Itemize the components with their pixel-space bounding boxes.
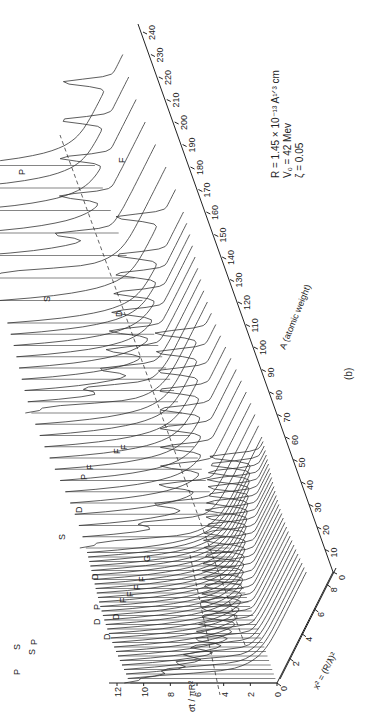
resonance-label-p: P <box>12 669 22 675</box>
a-tick-label: 160 <box>210 205 220 220</box>
a-tick-label: 200 <box>179 115 189 130</box>
a-tick-label: 240 <box>147 25 157 40</box>
resonance-label-p: P <box>17 169 27 175</box>
resonance-label-s: S <box>27 649 37 655</box>
x-tick-label: 8 <box>329 587 339 592</box>
a-tick-label: 120 <box>242 295 252 310</box>
a-tick-label: 60 <box>290 435 300 445</box>
panel-label: (b) <box>343 368 354 380</box>
x-tick-label: 6 <box>316 612 326 617</box>
a-tick-label: 30 <box>313 502 323 512</box>
resonance-label-s: S <box>57 534 67 540</box>
a-tick-label: 50 <box>297 457 307 467</box>
resonance-label-p: P <box>92 604 102 610</box>
a-axis-label: A (atomic weight) <box>278 283 313 351</box>
cross-section-curve <box>0 100 136 211</box>
resonance-label-d: D <box>90 573 100 580</box>
y-tick-label: 8 <box>166 692 176 697</box>
resonance-label-s: S <box>12 644 22 650</box>
cross-section-curve <box>0 55 123 166</box>
resonance-label-f: F <box>117 157 127 163</box>
resonance-label-d: D <box>114 310 124 317</box>
resonance-label-d: D <box>92 618 102 625</box>
param-potential: V₀ = 42 Mev <box>282 70 294 178</box>
resonance-label-d: D <box>102 633 112 640</box>
a-tick-label: 170 <box>202 182 212 197</box>
resonance-label-f: F <box>132 584 142 590</box>
x-tick-label: 0 <box>279 686 289 691</box>
resonance-label-s: S <box>42 296 52 302</box>
resonance-label-f: F <box>125 591 135 597</box>
cross-section-curve <box>92 460 268 571</box>
a-tick-label: 40 <box>305 480 315 490</box>
resonance-label-f: F <box>85 464 95 470</box>
a-tick-label: 90 <box>266 367 276 377</box>
cross-section-curve <box>14 235 190 346</box>
param-radius: R = 1.45 × 10⁻¹³ A¹ᐟ³ cm <box>270 70 282 178</box>
cross-section-curve <box>60 370 236 481</box>
a-tick-label: 10 <box>329 547 339 557</box>
cross-section-curve <box>89 451 265 562</box>
resonance-label-f: F <box>137 576 147 582</box>
a-tick-label: 190 <box>187 137 197 152</box>
a-tick-label: 180 <box>195 160 205 175</box>
waterfall-chart: 024681012σ̄t / πR²02468x² = (R/ƛ)²010203… <box>0 0 365 716</box>
resonance-label-g: G <box>142 555 152 562</box>
a-tick-label: 110 <box>250 318 260 332</box>
a-tick-label: 220 <box>163 70 173 85</box>
cross-section-curve <box>0 190 176 301</box>
cross-section-curve <box>80 437 262 548</box>
cross-section-curve <box>100 496 276 607</box>
cross-section-curve <box>45 336 221 447</box>
cross-section-curve <box>28 291 204 402</box>
cross-section-curve <box>0 167 166 278</box>
cross-section-curve <box>70 392 246 503</box>
cross-section-curve <box>55 358 231 469</box>
cross-section-curve <box>19 257 195 368</box>
y-tick-label: 12 <box>113 687 123 697</box>
cross-section-curve <box>22 268 198 379</box>
cross-section-curve <box>99 491 275 602</box>
resonance-label-d: D <box>74 506 84 513</box>
x-tick-label: 2 <box>291 661 301 666</box>
resonance-label-p: P <box>79 474 89 480</box>
param-zeta: ζ = 0.05 <box>294 70 306 178</box>
a-tick-label: 20 <box>321 525 331 535</box>
a-tick-label: 80 <box>274 390 284 400</box>
cross-section-curve <box>97 482 273 593</box>
a-tick-label: 230 <box>155 47 165 62</box>
resonance-label-p: P <box>29 639 39 645</box>
a-tick-label: 100 <box>258 340 268 355</box>
cross-section-curve <box>0 122 145 233</box>
a-tick-label: 70 <box>282 412 292 422</box>
resonance-label-d: D <box>111 613 121 620</box>
cross-section-curve <box>83 426 259 537</box>
a-tick-label: 140 <box>226 250 236 265</box>
tick-labels: 024681012σ̄t / πR²02468x² = (R/ƛ)²010203… <box>113 25 347 712</box>
a-tick-label: 0 <box>337 575 347 580</box>
a-tick-label: 150 <box>218 227 228 242</box>
y-tick-label: 10 <box>140 687 150 697</box>
a-tick-label: 210 <box>171 92 181 107</box>
y-tick-label: 2 <box>246 692 256 697</box>
cross-section-curve <box>11 223 187 334</box>
y-tick-label: 4 <box>220 692 230 697</box>
cross-section-curve <box>65 381 241 492</box>
x-axis-label: x² = (R/ƛ)² <box>311 651 339 691</box>
a-tick-label: 130 <box>234 272 244 287</box>
x-tick-label: 4 <box>304 637 314 642</box>
y-tick-label: 0 <box>273 692 283 697</box>
y-axis-label: σ̄t / πR² <box>187 681 197 712</box>
resonance-label-f: F <box>119 444 129 450</box>
parameter-block: R = 1.45 × 10⁻¹³ A¹ᐟ³ cm V₀ = 42 Mev ζ =… <box>270 70 306 178</box>
